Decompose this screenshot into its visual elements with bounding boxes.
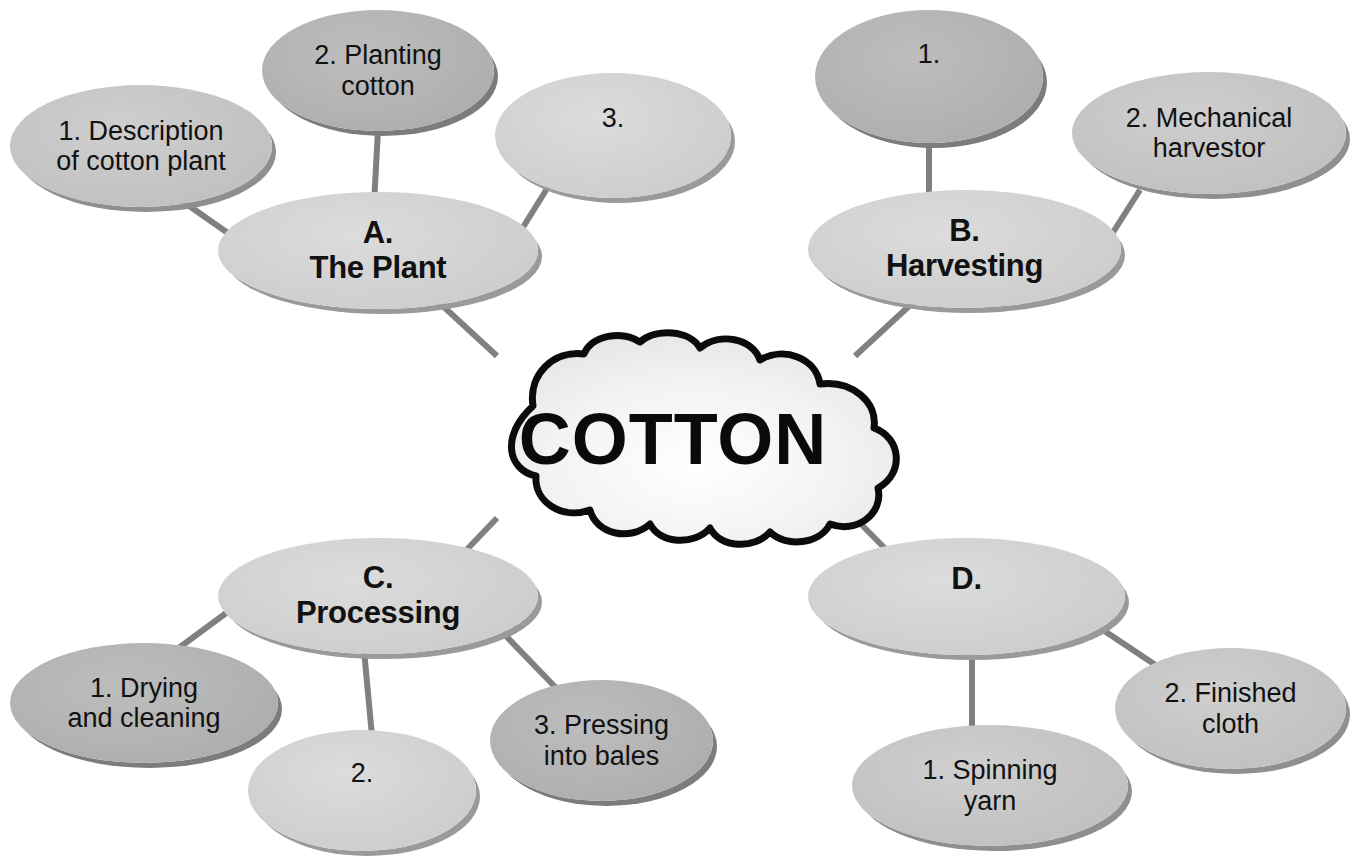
node-d2-finished-cloth[interactable]: 2. Finished cloth — [1115, 648, 1346, 769]
center-cloud-title: COTTON — [432, 328, 914, 550]
node-c1-label: 1. Drying and cleaning — [61, 673, 226, 733]
node-b2-label: 2. Mechanical harvestor — [1120, 103, 1299, 163]
node-d2-label: 2. Finished cloth — [1158, 678, 1302, 738]
node-a-the-plant[interactable]: A. The Plant — [218, 192, 538, 309]
center-cloud[interactable]: COTTON — [432, 328, 914, 550]
node-d-empty[interactable]: D. — [808, 538, 1125, 655]
node-a3-empty[interactable]: 3. — [495, 73, 731, 198]
mind-map-canvas: 1. Description of cotton plant 2. Planti… — [0, 0, 1351, 867]
node-d1-spinning-yarn[interactable]: 1. Spinning yarn — [852, 725, 1128, 846]
node-c-label: C. Processing — [290, 561, 466, 630]
node-c3-pressing-into-bales[interactable]: 3. Pressing into bales — [490, 680, 713, 801]
edge-c-c3 — [503, 633, 559, 691]
node-b-label: B. Harvesting — [880, 214, 1049, 283]
node-a2-label: 2. Planting cotton — [308, 40, 448, 100]
node-c3-label: 3. Pressing into bales — [528, 710, 675, 770]
node-c1-drying-and-cleaning[interactable]: 1. Drying and cleaning — [10, 643, 278, 763]
node-a1-description-of-cotton-plant[interactable]: 1. Description of cotton plant — [10, 85, 272, 207]
node-a3-label: 3. — [596, 103, 631, 133]
node-a-label: A. The Plant — [304, 216, 453, 285]
node-c2-label: 2. — [345, 758, 380, 788]
node-c2-empty[interactable]: 2. — [248, 730, 476, 851]
edge-c-c2 — [364, 650, 372, 736]
node-b-harvesting[interactable]: B. Harvesting — [808, 190, 1121, 308]
node-c-processing[interactable]: C. Processing — [218, 538, 538, 654]
node-d-label: D. — [945, 562, 987, 597]
edge-d-d2 — [1103, 630, 1160, 668]
node-d1-label: 1. Spinning yarn — [916, 755, 1063, 815]
node-b1-label: 1. — [912, 39, 947, 69]
node-b1-empty[interactable]: 1. — [815, 10, 1043, 143]
node-a1-label: 1. Description of cotton plant — [50, 116, 232, 176]
node-a2-planting-cotton[interactable]: 2. Planting cotton — [262, 10, 494, 131]
node-b2-mechanical-harvestor[interactable]: 2. Mechanical harvestor — [1072, 72, 1346, 194]
